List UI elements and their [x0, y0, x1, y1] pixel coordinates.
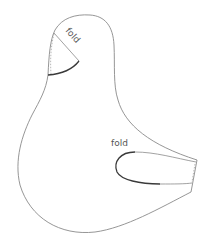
body-outline: [18, 15, 197, 233]
wing-fold-label: fold: [111, 138, 128, 148]
pattern-diagram: fold fold: [0, 0, 209, 241]
